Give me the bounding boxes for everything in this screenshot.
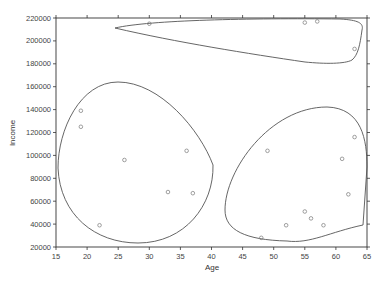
- x-tick-label: 20: [83, 252, 91, 261]
- y-tick-label: 60000: [30, 197, 51, 206]
- data-point: [191, 191, 195, 195]
- x-tick-label: 60: [332, 252, 340, 261]
- data-point: [353, 135, 357, 139]
- x-tick-label: 45: [238, 252, 246, 261]
- data-points: [79, 20, 356, 240]
- data-point: [79, 109, 83, 113]
- y-axis-title: Income: [8, 119, 17, 146]
- x-tick-label: 35: [176, 252, 184, 261]
- x-axis-title: Age: [205, 263, 220, 272]
- x-tick-label: 50: [270, 252, 278, 261]
- data-point: [353, 47, 357, 51]
- data-point: [266, 149, 270, 153]
- data-point: [98, 223, 102, 227]
- y-tick-label: 140000: [26, 105, 51, 114]
- cluster-outlines: [58, 19, 367, 243]
- x-tick-label: 30: [145, 252, 153, 261]
- data-point: [322, 223, 326, 227]
- y-tick-label: 200000: [26, 36, 51, 45]
- cluster-outline-right: [225, 107, 367, 241]
- x-axis: 1520253035404550556065: [52, 15, 371, 261]
- data-point: [347, 193, 351, 197]
- y-tick-label: 80000: [30, 174, 51, 183]
- plot-border: [56, 18, 367, 247]
- x-tick-label: 15: [52, 252, 60, 261]
- data-point: [303, 210, 307, 214]
- y-tick-label: 160000: [26, 82, 51, 91]
- x-tick-label: 25: [114, 252, 122, 261]
- data-point: [315, 20, 319, 24]
- y-tick-label: 180000: [26, 59, 51, 68]
- data-point: [166, 190, 170, 194]
- data-point: [123, 158, 127, 162]
- data-point: [79, 125, 83, 129]
- y-tick-label: 120000: [26, 128, 51, 137]
- data-point: [309, 217, 313, 221]
- x-tick-label: 55: [301, 252, 309, 261]
- plot-frame: [56, 18, 367, 247]
- y-tick-label: 40000: [30, 220, 51, 229]
- y-axis: 2000040000600008000010000012000014000016…: [26, 14, 370, 252]
- y-tick-label: 20000: [30, 243, 51, 252]
- cluster-outline-left: [58, 82, 213, 243]
- data-point: [340, 157, 344, 161]
- x-tick-label: 65: [363, 252, 371, 261]
- data-point: [284, 223, 288, 227]
- y-tick-label: 100000: [26, 151, 51, 160]
- y-tick-label: 220000: [26, 14, 51, 23]
- data-point: [303, 21, 307, 25]
- x-tick-label: 40: [207, 252, 215, 261]
- data-point: [185, 149, 189, 153]
- scatter-chart: 1520253035404550556065 20000400006000080…: [0, 0, 383, 281]
- cluster-outline-top: [115, 19, 362, 64]
